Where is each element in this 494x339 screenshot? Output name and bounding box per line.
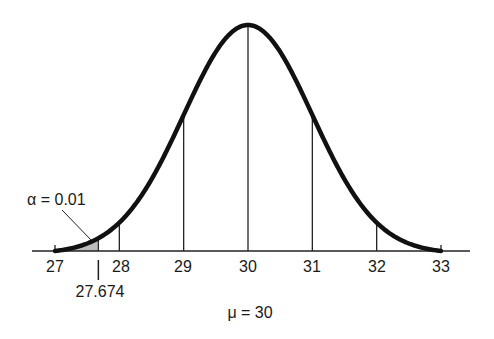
- tick-label-31: 31: [303, 258, 321, 276]
- normal-curve-plot: [0, 0, 494, 339]
- alpha-annotation: α = 0.01: [27, 191, 86, 209]
- tick-label-28: 28: [112, 258, 130, 276]
- mean-label: μ = 30: [227, 304, 272, 322]
- tick-label-27: 27: [46, 258, 64, 276]
- tick-label-33: 33: [432, 258, 450, 276]
- tick-label-30: 30: [239, 258, 257, 276]
- tick-label-29: 29: [174, 258, 192, 276]
- tick-label-32: 32: [368, 258, 386, 276]
- critical-value-label: 27.674: [76, 283, 125, 301]
